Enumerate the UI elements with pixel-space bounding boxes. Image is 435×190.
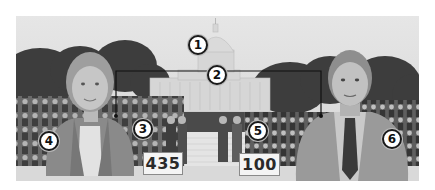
callout-4: 4	[39, 131, 59, 151]
senate-count-card: 100	[239, 153, 280, 176]
callout-2: 2	[207, 65, 227, 85]
callout-1: 1	[188, 35, 208, 55]
scene-artwork	[16, 16, 419, 181]
house-count-card: 435	[143, 152, 183, 175]
callout-5: 5	[248, 121, 268, 141]
congress-illustration	[16, 16, 419, 181]
callout-6: 6	[382, 129, 402, 149]
callout-3: 3	[133, 119, 153, 139]
